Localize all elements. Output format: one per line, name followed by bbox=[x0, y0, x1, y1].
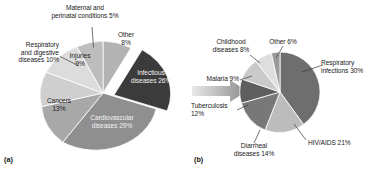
panel-tag-a: (a) bbox=[4, 155, 13, 164]
label-injuries: Injuries 9% bbox=[58, 52, 102, 67]
label-other: Other 8% bbox=[109, 31, 143, 46]
label-respiratory-digestive: Respiratory and digestive diseases 10% bbox=[0, 41, 59, 64]
label-respiratory-line3: diseases 10% bbox=[19, 56, 59, 63]
label-other-line2: 8% bbox=[121, 39, 130, 46]
panel-a-global-deaths: Maternal and perinatal conditions 5% Res… bbox=[0, 0, 215, 173]
label-malaria: Malaria 9% bbox=[190, 75, 239, 83]
label-resp-inf-line1: Respiratory bbox=[321, 59, 354, 66]
label-other-b: Other 6% bbox=[260, 38, 306, 46]
connector-arrow-icon bbox=[192, 80, 247, 102]
label-maternal-line1: Maternal and bbox=[66, 4, 104, 11]
label-cardio-line1: Cardiovascular bbox=[90, 114, 133, 121]
label-cardio-line2: diseases 29% bbox=[92, 122, 132, 129]
label-infectious-line1: Infectious bbox=[137, 69, 165, 76]
label-cancers: Cancers 13% bbox=[38, 97, 80, 112]
label-respiratory-infections: Respiratory infections 30% bbox=[321, 59, 363, 74]
panel-tag-b: (b) bbox=[194, 155, 203, 164]
pie-chart-global-causes bbox=[0, 0, 215, 173]
label-infectious-line2: diseases 26% bbox=[131, 77, 171, 84]
label-resp-inf-line2: infections 30% bbox=[321, 67, 363, 74]
label-infectious-diseases: Infectious diseases 26% bbox=[120, 69, 182, 84]
label-diarrheal-line2: diseases 14% bbox=[234, 150, 274, 157]
label-diarrheal-diseases: Diarrheal diseases 14% bbox=[219, 142, 289, 157]
label-respiratory-line1: Respiratory bbox=[26, 41, 59, 48]
label-cancers-line1: Cancers bbox=[47, 97, 71, 104]
label-tuberculosis: Tuberculosis 12% bbox=[191, 102, 228, 117]
panel-b-infectious-breakdown: Childhood diseases 8% Other 6% Respirato… bbox=[190, 0, 371, 173]
label-respiratory-line2: and digestive bbox=[21, 49, 59, 56]
label-hiv-aids: HIV/AIDS 21% bbox=[308, 139, 351, 147]
label-maternal-perinatal: Maternal and perinatal conditions 5% bbox=[28, 4, 142, 19]
label-tb-line1: Tuberculosis bbox=[191, 102, 228, 109]
label-maternal-line2: perinatal conditions 5% bbox=[51, 12, 118, 19]
label-childhood-line1: Childhood bbox=[216, 38, 245, 45]
label-injuries-line1: Injuries bbox=[70, 52, 91, 59]
label-childhood-diseases: Childhood diseases 8% bbox=[206, 38, 256, 53]
label-cardiovascular: Cardiovascular diseases 29% bbox=[76, 114, 148, 129]
pie-slices-b bbox=[240, 52, 320, 133]
label-other-line1: Other bbox=[118, 31, 134, 38]
figure-root: Maternal and perinatal conditions 5% Res… bbox=[0, 0, 371, 173]
label-injuries-line2: 9% bbox=[75, 60, 84, 67]
label-tb-line2: 12% bbox=[191, 110, 204, 117]
label-childhood-line2: diseases 8% bbox=[213, 46, 250, 53]
label-diarrheal-line1: Diarrheal bbox=[241, 142, 267, 149]
label-cancers-line2: 13% bbox=[52, 105, 65, 112]
